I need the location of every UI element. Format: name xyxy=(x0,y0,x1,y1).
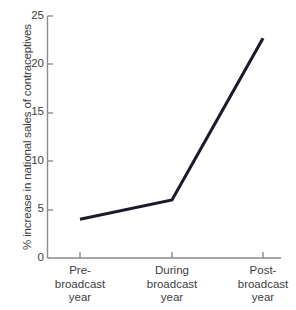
x-tick-label-during-line2: broadcast xyxy=(126,278,218,292)
x-tick-label-pre-broadcast-year: Pre- broadcast year xyxy=(34,264,126,305)
x-tick-label-post-line3: year xyxy=(217,291,296,305)
data-series-line xyxy=(80,38,263,219)
x-tick-label-during-broadcast-year: During broadcast year xyxy=(126,264,218,305)
x-tick-label-pre-line1: Pre- xyxy=(34,264,126,278)
x-tick-label-post-broadcast-year: Post- broadcast year xyxy=(217,264,296,305)
line-chart: % increase in national sales of contrace… xyxy=(0,0,296,310)
x-tick-label-post-line2: broadcast xyxy=(217,278,296,292)
x-tick-label-pre-line2: broadcast xyxy=(34,278,126,292)
x-tick-label-pre-line3: year xyxy=(34,291,126,305)
x-tick-label-during-line3: year xyxy=(126,291,218,305)
x-tick-label-post-line1: Post- xyxy=(217,264,296,278)
x-tick-label-during-line1: During xyxy=(126,264,218,278)
